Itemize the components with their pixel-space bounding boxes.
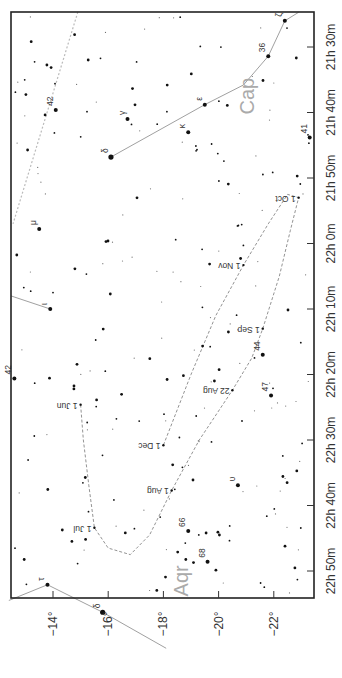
field-star <box>218 534 221 537</box>
field-star <box>220 46 222 48</box>
field-star <box>285 406 286 407</box>
field-star <box>23 558 26 561</box>
star-label: 42 <box>45 96 55 106</box>
star-label: 44 <box>252 341 262 351</box>
field-star <box>61 529 64 532</box>
field-star <box>252 76 253 77</box>
field-star <box>282 475 285 478</box>
field-star <box>302 193 303 194</box>
field-star <box>300 342 302 344</box>
field-star <box>256 485 257 486</box>
field-star <box>143 510 144 511</box>
field-star <box>269 120 270 121</box>
field-star <box>50 66 53 69</box>
field-star <box>269 110 270 111</box>
field-star <box>112 242 113 243</box>
field-star <box>263 586 265 588</box>
field-star <box>159 516 161 518</box>
field-star <box>223 582 224 583</box>
path-date-marker <box>162 444 164 446</box>
field-star <box>122 260 123 261</box>
field-star <box>27 459 29 461</box>
boundary-line <box>13 12 78 224</box>
field-star <box>218 100 220 102</box>
field-star <box>213 380 216 383</box>
field-star <box>136 61 138 63</box>
field-star <box>77 563 79 565</box>
ra-tick-label: 22h 10m <box>324 286 338 333</box>
field-star <box>84 476 87 479</box>
field-star <box>227 183 230 186</box>
field-star <box>30 40 33 43</box>
constellation-label: Cap <box>236 78 258 115</box>
star-label: 41 <box>299 124 309 134</box>
field-star <box>104 370 106 372</box>
field-star <box>131 87 134 90</box>
field-star <box>239 193 240 194</box>
field-star <box>37 167 38 168</box>
field-star <box>215 569 218 572</box>
field-star <box>218 180 220 182</box>
star <box>269 393 273 397</box>
field-star <box>44 114 47 117</box>
field-star <box>295 401 296 402</box>
constellation-label: Aqr <box>170 565 192 596</box>
path-date-label: 1 Jul <box>73 524 91 534</box>
star-chart: 1 Jun1 Jul1 Aug22 Aug1 Sep1 Oct1 Nov1 De… <box>0 0 342 678</box>
field-star <box>243 245 245 247</box>
field-star <box>192 561 195 564</box>
field-star <box>15 254 18 257</box>
field-star <box>273 82 274 83</box>
star <box>186 529 190 533</box>
field-star <box>262 79 265 82</box>
field-star <box>73 33 76 36</box>
field-star <box>76 363 79 366</box>
field-star <box>116 418 118 420</box>
chart-frame <box>11 12 314 598</box>
field-star <box>95 399 98 402</box>
field-star <box>184 558 187 561</box>
field-star <box>266 515 268 517</box>
field-star <box>73 388 76 391</box>
field-star <box>239 363 240 364</box>
field-star <box>74 267 77 270</box>
field-star <box>182 142 183 143</box>
field-star <box>300 527 302 529</box>
field-star <box>134 103 137 106</box>
star <box>206 560 210 564</box>
star <box>308 135 312 139</box>
field-star <box>102 263 103 264</box>
field-star <box>80 374 81 375</box>
field-star <box>204 408 205 409</box>
path-curve <box>81 194 299 554</box>
field-star <box>95 339 97 341</box>
field-star <box>166 549 167 550</box>
field-star <box>273 508 275 510</box>
star-label: δ <box>92 603 102 608</box>
star-label: υ <box>227 476 237 481</box>
field-star <box>217 153 219 155</box>
path-date-marker <box>262 327 264 329</box>
field-star <box>30 290 32 292</box>
field-star <box>218 251 219 252</box>
field-star <box>21 349 22 350</box>
field-star <box>120 393 123 396</box>
field-star <box>205 532 208 535</box>
field-star <box>87 59 90 62</box>
field-star <box>159 17 160 18</box>
field-star <box>166 111 168 113</box>
dec-tick-label: −16° <box>101 611 115 636</box>
ra-tick-label: 22h 0m <box>324 223 338 263</box>
field-star <box>122 214 123 215</box>
field-star <box>46 434 47 435</box>
ra-tick-label: 21h 40m <box>324 89 338 136</box>
field-star <box>277 402 278 403</box>
field-star <box>286 481 289 484</box>
star-label: κ <box>177 123 187 128</box>
field-star <box>73 385 76 388</box>
field-star <box>227 331 230 334</box>
star-label: μ <box>28 220 38 225</box>
star-label: 66 <box>177 517 187 527</box>
field-star <box>209 346 211 348</box>
field-star <box>289 592 290 593</box>
